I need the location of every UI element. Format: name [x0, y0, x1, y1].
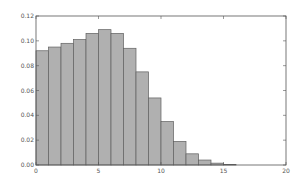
- histogram-bar: [136, 72, 149, 165]
- histogram-bar: [49, 47, 62, 165]
- histogram-bar: [161, 122, 174, 165]
- histogram-bar: [74, 40, 87, 165]
- y-tick-label: 0.12: [21, 12, 35, 19]
- histogram-bars: [36, 30, 236, 165]
- histogram-bar: [186, 154, 199, 165]
- histogram-bar: [61, 43, 74, 165]
- histogram-bar: [149, 98, 162, 165]
- x-tick-label: 10: [157, 167, 165, 174]
- y-tick-label: 0.10: [21, 37, 35, 44]
- x-tick-label: 5: [97, 167, 101, 174]
- x-tick-label: 15: [220, 167, 228, 174]
- histogram-bar: [174, 141, 187, 165]
- x-tick-label: 0: [34, 167, 38, 174]
- histogram-bar: [86, 33, 99, 165]
- histogram-bar: [199, 160, 212, 165]
- x-tick-label: 20: [282, 167, 290, 174]
- histogram-chart: 05101520 0.000.020.040.060.080.100.12: [0, 0, 305, 181]
- y-tick-label: 0.02: [21, 136, 35, 143]
- histogram-bar: [111, 33, 124, 165]
- y-tick-label: 0.06: [21, 87, 35, 94]
- y-tick-label: 0.00: [21, 161, 35, 168]
- y-tick-label: 0.08: [21, 62, 35, 69]
- y-tick-label: 0.04: [21, 111, 35, 118]
- histogram-bar: [36, 51, 49, 165]
- histogram-bar: [124, 48, 137, 165]
- histogram-bar: [99, 30, 112, 165]
